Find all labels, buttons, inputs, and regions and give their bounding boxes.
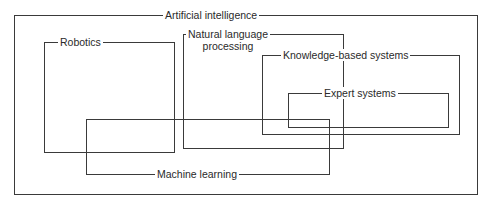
- nlp-label-line1: Natural language: [188, 28, 268, 40]
- robotics-label: Robotics: [58, 36, 103, 48]
- artificial-intelligence-label: Artificial intelligence: [163, 9, 259, 21]
- nlp-label-line2: processing: [203, 40, 254, 52]
- machine-learning-label: Machine learning: [155, 168, 239, 180]
- expert-systems-label: Expert systems: [322, 87, 398, 99]
- knowledge-based-systems-label: Knowledge-based systems: [281, 49, 410, 61]
- nlp-label: Natural language processing: [186, 28, 270, 52]
- machine-learning-box: [86, 119, 330, 175]
